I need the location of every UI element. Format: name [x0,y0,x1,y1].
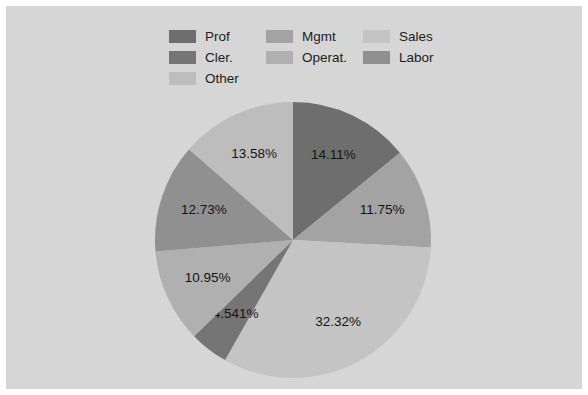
pie-slice-label: 11.75% [360,202,405,217]
pie-slice-label: 10.95% [185,270,231,285]
pie-chart-svg: 14.11%11.75%32.32%4.541%10.95%12.73%13.5… [6,6,582,389]
pie-slice-label: 14.11% [311,147,356,162]
pie-slice-label: 13.58% [231,146,277,161]
pie-slice-label: 12.73% [181,202,227,217]
pie-chart: 14.11%11.75%32.32%4.541%10.95%12.73%13.5… [6,6,582,389]
chart-figure: Prof Cler. Other Mgmt Operat. Sales Labo… [6,6,582,389]
pie-slice-label: 32.32% [315,314,361,329]
